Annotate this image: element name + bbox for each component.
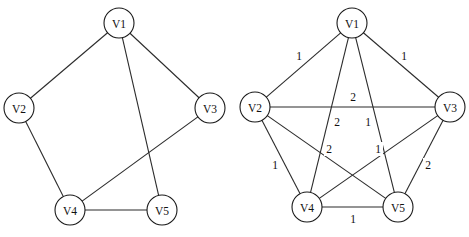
- edge-weight-v3-v4: 1: [375, 143, 381, 155]
- node-label-v3: V3: [443, 102, 457, 114]
- graph-figure: V1V2V3V4V5 1121212121 V1V2V3V4V5: [0, 0, 469, 237]
- edge-v1-v2: [30, 33, 107, 99]
- edge-weight-v3-v5: 2: [425, 159, 431, 171]
- node-label-v5: V5: [155, 205, 169, 217]
- left-graph-edges: [26, 33, 199, 210]
- edge-v1-v4: [311, 38, 349, 193]
- left-graph-nodes: V1V2V3V4V5: [4, 8, 225, 225]
- edge-v1-v5: [122, 38, 158, 196]
- edge-weight-v1-v4: 2: [334, 116, 340, 128]
- edge-weight-v4-v5: 1: [350, 213, 356, 225]
- node-label-v4: V4: [300, 202, 314, 214]
- edge-weight-v2-v5: 2: [326, 143, 332, 155]
- node-label-v3: V3: [203, 103, 217, 115]
- right-graph-nodes: V1V2V3V4V5: [240, 8, 465, 222]
- edge-v3-v4: [82, 117, 198, 201]
- edge-weight-v2-v3: 2: [350, 91, 356, 103]
- edge-v1-v2: [266, 33, 340, 97]
- edge-v1-v3: [363, 33, 438, 97]
- node-label-v1: V1: [112, 18, 126, 30]
- edge-weight-v1-v2: 1: [296, 50, 302, 62]
- node-label-v5: V5: [391, 202, 405, 214]
- node-label-v2: V2: [12, 103, 26, 115]
- node-label-v2: V2: [248, 102, 262, 114]
- edge-weight-v1-v5: 1: [365, 116, 371, 128]
- edge-weight-v2-v4: 1: [272, 159, 278, 171]
- node-label-v4: V4: [63, 205, 77, 217]
- node-label-v1: V1: [345, 18, 359, 30]
- right-graph: 1121212121 V1V2V3V4V5: [240, 8, 465, 226]
- edge-weight-v1-v3: 1: [401, 50, 407, 62]
- edge-v2-v4: [262, 120, 300, 193]
- edge-v3-v5: [405, 120, 443, 193]
- left-graph: V1V2V3V4V5: [4, 8, 225, 225]
- edge-v1-v3: [130, 33, 199, 98]
- right-graph-edges: [262, 33, 443, 207]
- edge-v2-v4: [26, 121, 64, 196]
